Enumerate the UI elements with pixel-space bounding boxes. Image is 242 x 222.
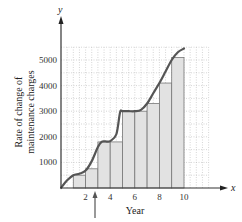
y-axis-title-line1: Rate of change of [13, 76, 24, 147]
x-axis-arrow-icon [220, 186, 228, 191]
bar [110, 142, 122, 188]
bar [172, 57, 184, 188]
x-tick-label: 10 [180, 192, 190, 202]
y-tick-label: 5000 [39, 55, 58, 65]
x-tick-label: 6 [133, 192, 138, 202]
y-tick-label: 4000 [39, 81, 58, 91]
bar [135, 111, 147, 188]
y-axis-arrow-icon [59, 16, 64, 24]
x-axis-symbol: x [230, 182, 236, 193]
x-axis-title: Year [126, 205, 145, 216]
y-tick-label: 2000 [39, 132, 58, 142]
chart-figure: y x 10002000300040005000 246810 Rate of … [0, 0, 242, 222]
x-tick-labels: 246810 [83, 192, 189, 202]
y-tick-label: 1000 [39, 157, 58, 167]
bar [73, 175, 85, 188]
x-tick-label: 4 [108, 192, 113, 202]
bar [147, 104, 159, 188]
up-arrow-annotation-icon [93, 191, 98, 218]
y-axis-title-line2: maintenance charges [25, 70, 36, 153]
bar [98, 142, 110, 188]
bar [123, 111, 135, 188]
x-tick-label: 2 [83, 192, 88, 202]
y-tick-label: 3000 [39, 106, 58, 116]
y-tick-labels: 10002000300040005000 [39, 55, 58, 167]
bar [86, 169, 98, 188]
bar [159, 83, 171, 188]
x-tick-label: 8 [157, 192, 162, 202]
y-axis-title: Rate of change of maintenance charges [13, 70, 36, 153]
y-axis-symbol: y [57, 4, 63, 15]
